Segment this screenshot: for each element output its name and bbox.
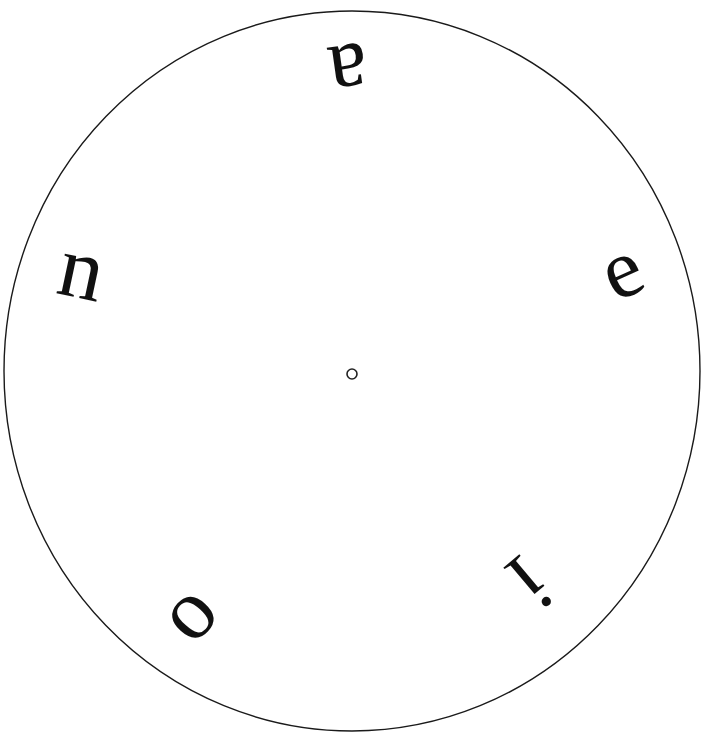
vowel-disk-figure: a e i o n bbox=[0, 0, 717, 748]
center-pivot-hole bbox=[347, 369, 357, 379]
